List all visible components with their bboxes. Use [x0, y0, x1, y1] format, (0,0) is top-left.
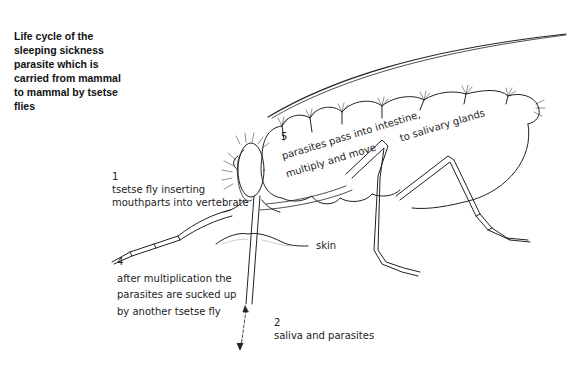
step-text-line: mouthparts into vertebrate [112, 196, 249, 209]
step-text-line: tsetse fly inserting [112, 183, 249, 196]
step-text-line: saliva and parasites [274, 329, 374, 342]
skin-icon [216, 233, 308, 246]
step-text-line: by another tsetse fly [117, 304, 236, 321]
step-4-label: 4 after multiplication the parasites are… [117, 254, 236, 320]
skin-label: skin [316, 239, 336, 252]
step-number: 1 [112, 170, 249, 183]
middle-leg-icon [346, 140, 420, 276]
step-text-line: after multiplication the [117, 271, 236, 288]
flow-arrow-icon [237, 306, 248, 350]
step-1-label: 1 tsetse fly inserting mouthparts into v… [112, 170, 249, 209]
tsetse-fly-illustration [0, 0, 573, 368]
wing-icon [268, 34, 566, 118]
step-text-line: parasites are sucked up [117, 287, 236, 304]
step-2-label: 2 saliva and parasites [274, 316, 374, 342]
hind-leg-icon [396, 156, 530, 242]
step-5-number: 5 [281, 130, 287, 143]
step-number: 2 [274, 316, 374, 329]
step-number: 4 [117, 254, 236, 271]
